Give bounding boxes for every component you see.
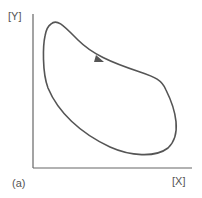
panel-label: (a) (12, 177, 25, 189)
y-axis-label: [Y] (8, 10, 21, 22)
phase-plot (0, 0, 202, 198)
limit-cycle-curve (43, 22, 176, 155)
x-axis-label: [X] (172, 175, 185, 187)
